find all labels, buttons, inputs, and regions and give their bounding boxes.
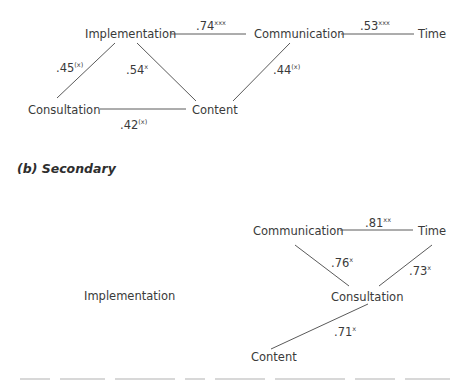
node-implementation: Implementation xyxy=(84,289,175,303)
section-b-heading: (b) Secondary xyxy=(17,161,116,176)
significance-marker: x xyxy=(427,264,431,272)
node-content: Content xyxy=(192,103,238,117)
significance-marker: (x) xyxy=(74,61,83,69)
diagram-a-network: .74xxx.53xxx.45(x).54x.44(x).42(x)Implem… xyxy=(28,19,446,132)
significance-marker: x xyxy=(144,63,148,71)
node-time: Time xyxy=(417,27,446,41)
coefficient-label-consultation-content: .42(x) xyxy=(120,118,147,132)
edge-implementation-content xyxy=(137,43,196,101)
coefficient-label-time-consultation: .73x xyxy=(409,264,431,278)
node-content: Content xyxy=(251,350,297,364)
coefficient-label-consultation-content: .71x xyxy=(334,325,356,339)
coefficient-label-communication-consultation: .76x xyxy=(331,256,353,270)
node-consultation: Consultation xyxy=(331,290,403,304)
node-communication: Communication xyxy=(254,27,345,41)
significance-marker: (x) xyxy=(291,63,300,71)
significance-marker: xx xyxy=(383,216,391,224)
node-consultation: Consultation xyxy=(28,103,100,117)
coefficient-label-communication-time: .53xxx xyxy=(360,19,390,33)
coefficient-label-implementation-consultation: .45(x) xyxy=(56,61,83,75)
correlation-diagrams: .74xxx.53xxx.45(x).54x.44(x).42(x)Implem… xyxy=(0,0,465,384)
coefficient-label-implementation-content: .54x xyxy=(126,63,148,77)
coefficient-label-communication-time: .81xx xyxy=(365,216,391,230)
node-communication: Communication xyxy=(253,224,344,238)
diagram-b-secondary-network: .81xx.76x.73x.71xCommunicationTimeImplem… xyxy=(84,216,446,364)
significance-marker: x xyxy=(349,256,353,264)
significance-marker: xxx xyxy=(214,19,226,27)
node-time: Time xyxy=(417,224,446,238)
significance-marker: (x) xyxy=(138,118,147,126)
cut-off-caption-line xyxy=(0,378,465,384)
coefficient-label-implementation-communication: .74xxx xyxy=(196,19,226,33)
node-implementation: Implementation xyxy=(85,27,176,41)
coefficient-label-communication-content: .44(x) xyxy=(273,63,300,77)
significance-marker: x xyxy=(352,325,356,333)
significance-marker: xxx xyxy=(378,19,390,27)
